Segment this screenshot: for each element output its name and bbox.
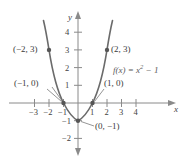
- y-tick-label--2: −2: [62, 134, 71, 143]
- point-label-1-0: (1, 0): [104, 79, 124, 88]
- point-label-neg2-3: (−2, 3): [13, 45, 38, 54]
- y-tick-label--1: −1: [62, 117, 71, 126]
- x-tick-label--2: −2: [44, 108, 53, 117]
- function-equation-label: f(x) = x2 − 1: [113, 64, 158, 75]
- x-tick-label-1: 1: [90, 108, 94, 117]
- x-axis-label: x: [174, 105, 178, 114]
- x-tick-label-3: 3: [119, 108, 123, 117]
- point-label-0-neg1: (0, −1): [95, 122, 120, 131]
- y-tick-label-2: 2: [65, 64, 69, 73]
- x-tick-label--3: −3: [29, 108, 38, 117]
- y-axis-label: y: [68, 13, 72, 22]
- function-equation-base: f(x) = x: [113, 65, 140, 75]
- y-tick-label-3: 3: [65, 46, 69, 55]
- parabola-graph-figure: y x −3 −2 −1 1 2 3 4 4 3 2 1 −1 −2 (−2, …: [0, 0, 185, 161]
- point-label-neg1-0: (−1, 0): [14, 79, 39, 88]
- function-equation-tail: − 1: [143, 65, 158, 75]
- x-tick-label-2: 2: [105, 108, 109, 117]
- x-tick-label-4: 4: [134, 108, 138, 117]
- y-axis: [74, 11, 82, 156]
- point-label-2-3: (2, 3): [111, 45, 131, 54]
- y-tick-label-4: 4: [65, 28, 69, 37]
- y-tick-label-1: 1: [65, 81, 69, 90]
